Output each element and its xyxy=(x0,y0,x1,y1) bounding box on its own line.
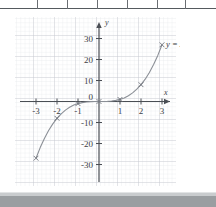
x-tick-label: 3 xyxy=(160,106,165,116)
y-tick-label: 30 xyxy=(84,34,94,44)
y-tick-label: 20 xyxy=(84,55,94,65)
x-tick-label: -3 xyxy=(32,106,40,116)
cubic-function-graph: -3 -2 -1 1 2 3 30 20 10 0 -10 -20 -30 y … xyxy=(12,14,180,189)
x-axis-label: x xyxy=(163,88,168,97)
bottom-bar xyxy=(0,192,216,207)
y-axis-label: y xyxy=(104,18,109,27)
table-cell xyxy=(38,0,68,9)
table-cell xyxy=(128,0,158,9)
y-tick-label: -20 xyxy=(81,139,93,149)
x-tick-label: -2 xyxy=(53,106,61,116)
table-cell xyxy=(0,0,38,9)
y-tick-label: -30 xyxy=(81,160,93,170)
table-strip xyxy=(0,0,216,9)
y-tick-label-zero: 0 xyxy=(89,92,94,102)
x-tick-label: 2 xyxy=(139,106,144,116)
table-cell xyxy=(158,0,186,9)
table-cell xyxy=(186,0,216,9)
figure-container: -3 -2 -1 1 2 3 30 20 10 0 -10 -20 -30 y … xyxy=(0,9,216,192)
x-tick-label: 1 xyxy=(118,106,123,116)
curve-equation-label: y = x³ xyxy=(165,39,180,49)
y-tick-label: -10 xyxy=(81,118,93,128)
table-cell xyxy=(98,0,128,9)
table-cell xyxy=(68,0,98,9)
y-tick-label: 10 xyxy=(84,76,94,86)
x-tick-label: -1 xyxy=(74,106,82,116)
graph-svg: -3 -2 -1 1 2 3 30 20 10 0 -10 -20 -30 y … xyxy=(12,14,180,189)
bottom-bar-highlight xyxy=(0,193,216,196)
